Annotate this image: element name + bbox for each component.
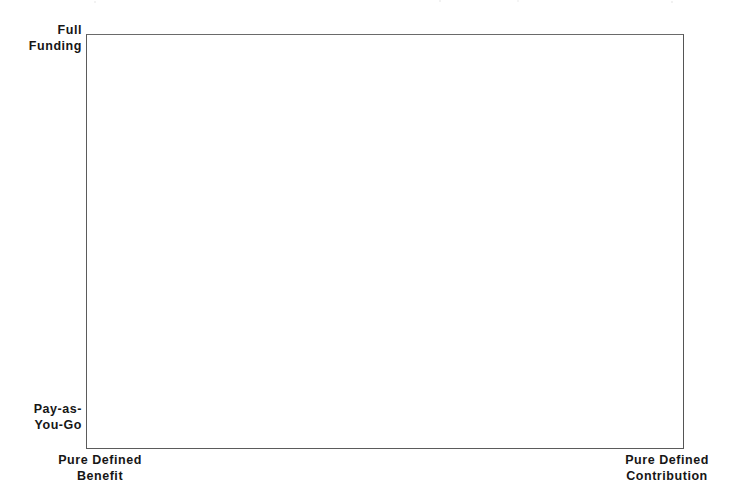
figure-page: Full Funding Pay-as- You-Go Pure Defined… — [0, 0, 736, 501]
x-axis-right-label: Pure Defined Contribution — [625, 452, 709, 484]
y-axis-bottom-label-line-2: You-Go — [34, 417, 82, 433]
x-axis-right-label-line-1: Pure Defined — [625, 452, 709, 468]
y-axis-top-label-line-2: Funding — [29, 38, 82, 54]
y-axis-bottom-label-line-1: Pay-as- — [34, 401, 82, 417]
x-axis-left-label-line-2: Benefit — [58, 468, 142, 484]
y-axis-bottom-label: Pay-as- You-Go — [34, 401, 82, 433]
framework-plot-box — [86, 34, 684, 449]
y-axis-top-label-line-1: Full — [29, 22, 82, 38]
x-axis-right-label-line-2: Contribution — [625, 468, 709, 484]
y-axis-top-label: Full Funding — [29, 22, 82, 54]
plot-area — [87, 35, 683, 448]
scan-edge-artifact — [0, 0, 736, 5]
x-axis-left-label-line-1: Pure Defined — [58, 452, 142, 468]
x-axis-left-label: Pure Defined Benefit — [58, 452, 142, 484]
